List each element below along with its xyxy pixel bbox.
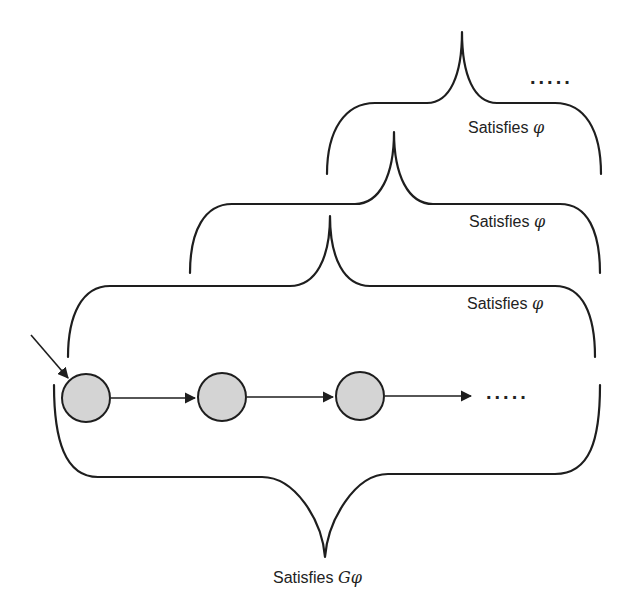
label-suffix-2-text: Satisfies: [468, 119, 528, 136]
phi-symbol: φ: [533, 118, 544, 137]
initial-state-arrow: [31, 335, 68, 378]
label-whole-run-text: Satisfies: [273, 569, 333, 586]
label-suffix-0: Satisfies φ: [467, 296, 543, 312]
brace-suffix-1: [190, 132, 600, 273]
run-continuation-dots: .....: [486, 382, 529, 402]
ltr-run-diagram: ..... ..... Satisfies φ Satisfies φ Sati…: [0, 0, 630, 615]
phi-symbol: φ: [532, 294, 543, 313]
brace-whole-run: [54, 385, 600, 557]
label-suffix-1: Satisfies φ: [469, 214, 545, 230]
phi-symbol: φ: [534, 212, 545, 231]
state-s1: [198, 373, 246, 421]
top-continuation-dots: .....: [530, 67, 573, 87]
label-whole-run: Satisfies Gφ: [273, 570, 362, 586]
brace-suffix-0: [68, 216, 595, 357]
label-suffix-1-text: Satisfies: [469, 213, 529, 230]
label-suffix-0-text: Satisfies: [467, 295, 527, 312]
state-s2: [336, 372, 384, 420]
state-s0: [62, 374, 110, 422]
label-suffix-2: Satisfies φ: [468, 120, 544, 136]
brace-suffix-2: [327, 32, 601, 174]
g-phi-symbol: Gφ: [338, 568, 362, 587]
